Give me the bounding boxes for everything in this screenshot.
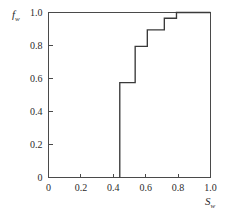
x-tick-label: 0.8 [172, 182, 185, 193]
step-curve [120, 13, 211, 178]
x-tick-label: 0 [46, 182, 51, 193]
y-tick-label: 1.0 [30, 7, 43, 18]
chart-figure: 00.20.40.60.81.0 00.20.40.60.81.0 fw Sw [0, 0, 237, 213]
y-axis-title: fw [12, 8, 20, 23]
x-tick-label: 1.0 [204, 182, 217, 193]
x-tick-label: 0.2 [75, 182, 88, 193]
y-axis-tick-labels: 00.20.40.60.81.0 [30, 7, 43, 183]
y-tick-label: 0 [38, 172, 43, 183]
x-axis-tick-labels: 00.20.40.60.81.0 [46, 182, 217, 193]
x-tick-label: 0.6 [139, 182, 152, 193]
y-tick-label: 0.8 [30, 40, 43, 51]
axis-spines [49, 13, 211, 178]
y-axis-title-subscript: w [15, 15, 20, 23]
x-axis-ticks [49, 174, 211, 178]
y-tick-label: 0.2 [30, 139, 43, 150]
x-axis-title: Sw [205, 195, 216, 210]
y-tick-label: 0.4 [30, 106, 43, 117]
chart-plot-svg: 00.20.40.60.81.0 00.20.40.60.81.0 fw Sw [0, 0, 237, 213]
y-axis-ticks [49, 13, 53, 178]
x-axis-title-subscript: w [211, 202, 216, 210]
axis-frame [49, 13, 211, 178]
y-tick-label: 0.6 [30, 73, 43, 84]
x-tick-label: 0.4 [107, 182, 120, 193]
